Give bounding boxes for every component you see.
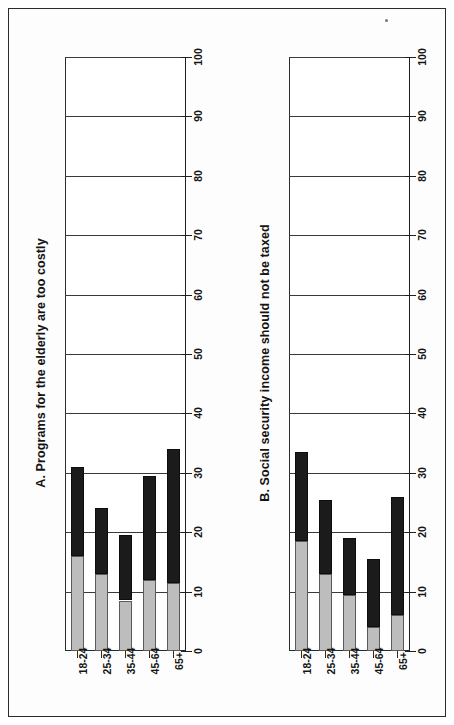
- value-tick-label: 80: [416, 170, 428, 182]
- value-tick-label: 90: [416, 111, 428, 123]
- value-tick: [181, 413, 192, 414]
- value-tick: [181, 651, 192, 652]
- bar-segment-lower[interactable]: [391, 615, 404, 651]
- bar-segment-upper[interactable]: [95, 508, 108, 573]
- value-tick: [405, 592, 416, 593]
- bar-segment-lower[interactable]: [343, 595, 356, 651]
- bar-segment-upper[interactable]: [143, 476, 156, 580]
- value-tick: [405, 176, 416, 177]
- bar-group[interactable]: [167, 57, 180, 651]
- value-tick-label: 10: [192, 586, 204, 598]
- value-tick: [181, 592, 192, 593]
- chart-a-plot: 18-2425-3435-4445-6465+ 0102030405060708…: [65, 57, 185, 651]
- figure-frame: A. Programs for the elderly are too cost…: [8, 8, 446, 717]
- bar-group[interactable]: [295, 57, 308, 651]
- category-label: 18-24: [77, 648, 89, 675]
- bar-segment-lower[interactable]: [295, 541, 308, 651]
- bar-segment-upper[interactable]: [319, 500, 332, 574]
- bar-group[interactable]: [343, 57, 356, 651]
- value-tick-label: 60: [416, 289, 428, 301]
- bar-segment-lower[interactable]: [143, 580, 156, 651]
- bar-segment-lower[interactable]: [319, 574, 332, 651]
- value-tick: [181, 57, 192, 58]
- bar-group[interactable]: [319, 57, 332, 651]
- value-tick: [181, 176, 192, 177]
- value-tick-label: 50: [416, 348, 428, 360]
- bar-segment-lower[interactable]: [71, 556, 84, 651]
- chart-a-title: A. Programs for the elderly are too cost…: [34, 238, 48, 487]
- category-label: 45-64: [373, 648, 385, 675]
- value-tick: [405, 235, 416, 236]
- bar-segment-upper[interactable]: [167, 449, 180, 583]
- category-label: 45-64: [149, 648, 161, 675]
- value-tick: [405, 532, 416, 533]
- chart-panel-a: A. Programs for the elderly are too cost…: [23, 9, 223, 716]
- category-label: 65+: [397, 652, 409, 670]
- bar-group[interactable]: [119, 57, 132, 651]
- value-tick: [181, 235, 192, 236]
- value-tick-label: 50: [192, 348, 204, 360]
- bar-segment-upper[interactable]: [295, 452, 308, 541]
- value-tick-label: 20: [416, 526, 428, 538]
- value-tick: [181, 473, 192, 474]
- chart-a-value-axis: 0102030405060708090100: [185, 57, 186, 651]
- value-tick: [405, 295, 416, 296]
- bar-segment-upper[interactable]: [391, 497, 404, 616]
- value-tick-label: 30: [192, 467, 204, 479]
- bar-segment-lower[interactable]: [95, 574, 108, 651]
- value-tick: [181, 295, 192, 296]
- chart-b-title: B. Social security income should not be …: [258, 224, 272, 501]
- value-tick: [181, 532, 192, 533]
- bar-segment-upper[interactable]: [367, 559, 380, 627]
- category-label: 65+: [173, 652, 185, 670]
- value-tick: [405, 354, 416, 355]
- value-tick-label: 10: [416, 586, 428, 598]
- value-tick-label: 40: [416, 408, 428, 420]
- bar-group[interactable]: [71, 57, 84, 651]
- value-tick-label: 70: [416, 229, 428, 241]
- bar-segment-lower[interactable]: [167, 583, 180, 651]
- category-label: 35-44: [349, 648, 361, 675]
- value-tick-label: 60: [192, 289, 204, 301]
- value-tick: [181, 354, 192, 355]
- bar-group[interactable]: [143, 57, 156, 651]
- value-tick-label: 40: [192, 408, 204, 420]
- bar-group[interactable]: [391, 57, 404, 651]
- value-tick: [405, 116, 416, 117]
- bar-segment-upper[interactable]: [343, 538, 356, 594]
- value-tick: [405, 413, 416, 414]
- bar-segment-lower[interactable]: [119, 601, 132, 651]
- value-tick-label: 100: [192, 48, 204, 66]
- value-tick-label: 90: [192, 111, 204, 123]
- chart-b-plot: 18-2425-3435-4445-6465+ 0102030405060708…: [289, 57, 409, 651]
- category-label: 35-44: [125, 648, 137, 675]
- chart-a-bars: 18-2425-3435-4445-6465+: [65, 57, 185, 651]
- chart-b-bars: 18-2425-3435-4445-6465+: [289, 57, 409, 651]
- chart-b-value-axis: 0102030405060708090100: [409, 57, 410, 651]
- bar-group[interactable]: [95, 57, 108, 651]
- value-tick-label: 30: [416, 467, 428, 479]
- bar-segment-upper[interactable]: [119, 535, 132, 600]
- value-tick: [405, 651, 416, 652]
- bar-segment-upper[interactable]: [71, 467, 84, 556]
- category-label: 25-34: [101, 648, 113, 675]
- value-tick-label: 100: [416, 48, 428, 66]
- category-label: 25-34: [325, 648, 337, 675]
- value-tick: [405, 57, 416, 58]
- chart-panel-b: B. Social security income should not be …: [247, 9, 447, 716]
- value-tick: [181, 116, 192, 117]
- value-tick-label: 80: [192, 170, 204, 182]
- value-tick-label: 70: [192, 229, 204, 241]
- value-tick-label: 0: [192, 648, 204, 654]
- value-tick: [405, 473, 416, 474]
- scan-artifact-speck: [385, 19, 388, 22]
- bar-group[interactable]: [367, 57, 380, 651]
- value-tick-label: 0: [416, 648, 428, 654]
- value-tick-label: 20: [192, 526, 204, 538]
- category-label: 18-24: [301, 648, 313, 675]
